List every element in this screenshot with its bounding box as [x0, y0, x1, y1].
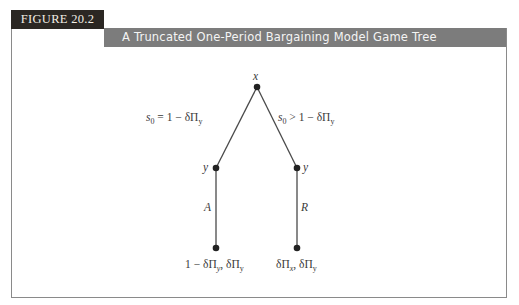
- left-offer-label: s0 = 1 − δΠy: [146, 111, 202, 126]
- left-y-node: [213, 165, 220, 172]
- reject-label: R: [301, 201, 308, 213]
- payoff-reject-p2: , δΠ: [293, 258, 312, 270]
- left-offer-rest: = 1 − δΠ: [154, 111, 198, 123]
- payoff-reject-p2-sub: y: [313, 264, 317, 273]
- payoff-reject-p1: δΠ: [276, 258, 290, 270]
- payoff-accept: 1 − δΠy, δΠy: [185, 258, 244, 273]
- root-node: [254, 84, 261, 91]
- accept-terminal-node: [213, 245, 220, 252]
- game-tree: [0, 0, 519, 305]
- right-offer-rest: > 1 − δΠ: [286, 111, 330, 123]
- root-label: x: [253, 70, 258, 82]
- branch-right-offer: [257, 87, 297, 168]
- payoff-accept-p2: , δΠ: [220, 258, 239, 270]
- branch-left-offer: [216, 87, 257, 168]
- left-y-label: y: [203, 161, 208, 173]
- right-offer-rest-sub: y: [330, 117, 334, 126]
- left-offer-rest-sub: y: [198, 117, 202, 126]
- payoff-accept-p1: 1 − δΠ: [185, 258, 217, 270]
- payoff-accept-p2-sub: y: [240, 264, 244, 273]
- accept-label: A: [204, 201, 211, 213]
- right-y-label: y: [303, 161, 308, 173]
- payoff-reject: δΠx, δΠy: [276, 258, 317, 273]
- reject-terminal-node: [294, 245, 301, 252]
- right-offer-label: s0 > 1 − δΠy: [278, 111, 334, 126]
- right-y-node: [294, 165, 301, 172]
